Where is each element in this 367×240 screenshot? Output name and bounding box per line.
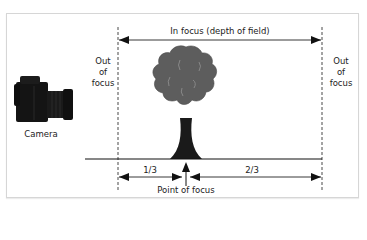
right-out-of-focus-line-1: Out bbox=[325, 56, 357, 67]
left-out-of-focus-line-2: of bbox=[90, 67, 116, 78]
point-of-focus-marker bbox=[182, 162, 190, 186]
right-out-of-focus-line-3: focus bbox=[325, 78, 357, 89]
left-out-of-focus-line-3: focus bbox=[90, 78, 116, 89]
right-out-of-focus-label: Out of focus bbox=[325, 56, 357, 89]
left-out-of-focus-label: Out of focus bbox=[90, 56, 116, 89]
near-fraction-label: 1/3 bbox=[138, 165, 162, 176]
depth-of-field-label: In focus (depth of field) bbox=[150, 26, 290, 37]
tree-icon bbox=[153, 46, 217, 159]
right-out-of-focus-line-2: of bbox=[325, 67, 357, 78]
camera-icon bbox=[14, 76, 73, 122]
left-out-of-focus-line-1: Out bbox=[90, 56, 116, 67]
point-of-focus-label: Point of focus bbox=[146, 185, 226, 196]
far-fraction-label: 2/3 bbox=[240, 165, 264, 176]
camera-label: Camera bbox=[14, 129, 68, 140]
